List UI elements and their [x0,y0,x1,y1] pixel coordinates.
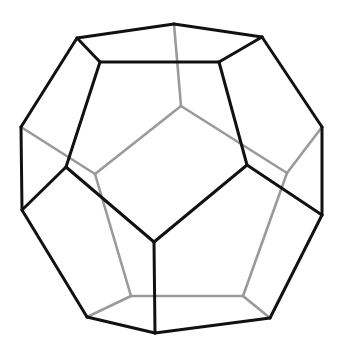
visible-edge [21,127,22,210]
hidden-edge [243,296,270,318]
visible-edge [219,37,262,62]
hidden-edge [174,24,181,106]
visible-edge [87,317,155,333]
visible-edges [21,24,322,333]
visible-edge [22,210,87,317]
visible-edge [219,62,247,165]
visible-edge [270,215,322,318]
hidden-edges [21,24,322,318]
visible-edge [154,242,155,333]
visible-edge [77,38,100,62]
hidden-edge [87,296,131,317]
hidden-edge [243,173,287,296]
visible-edge [262,37,322,127]
visible-edge [66,167,154,242]
visible-edge [154,165,247,242]
hidden-edge [21,127,95,174]
dodecahedron-diagram [0,0,344,355]
visible-edge [66,62,100,167]
visible-edge [174,24,262,37]
visible-edge [22,167,66,210]
hidden-edge [287,127,322,173]
visible-edge [77,24,174,38]
visible-edge [21,38,77,127]
hidden-edge [95,174,131,296]
hidden-edge [95,106,181,174]
visible-edge [155,318,270,333]
